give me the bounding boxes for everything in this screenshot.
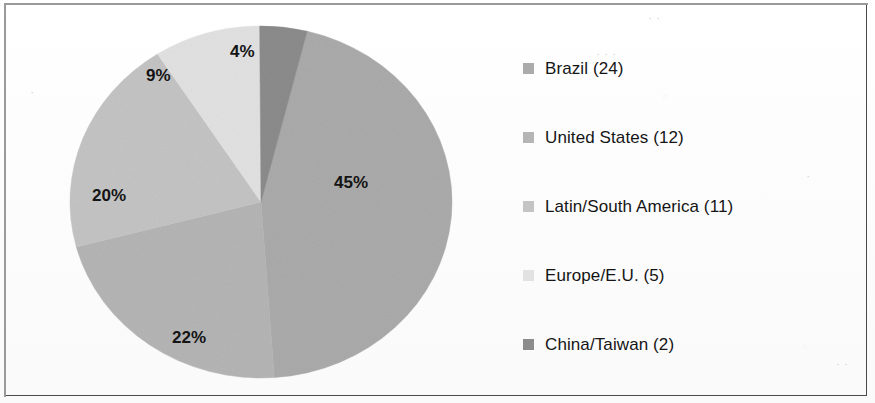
legend-item-china-taiwan[interactable]: China/Taiwan (2) [523, 310, 853, 379]
legend-item-brazil[interactable]: Brazil (24) [523, 34, 853, 103]
pie-slices [70, 26, 452, 378]
legend-item-united-states[interactable]: United States (12) [523, 103, 853, 172]
legend-swatch-icon [523, 132, 534, 143]
legend-label: Latin/South America (11) [545, 197, 733, 217]
legend-swatch-icon [523, 270, 534, 281]
legend-label: Brazil (24) [545, 59, 624, 79]
legend-swatch-icon [523, 63, 534, 74]
pie-chart: 45% 22% 20% 9% 4% [62, 18, 462, 388]
slice-percent-label-china-taiwan: 4% [230, 42, 255, 62]
slice-percent-label-europe: 9% [146, 66, 171, 86]
slice-percent-label-brazil: 45% [334, 173, 368, 193]
legend-label: United States (12) [545, 128, 684, 148]
slice-percent-label-united-states: 22% [172, 328, 206, 348]
legend-label: China/Taiwan (2) [545, 335, 674, 355]
chart-legend: Brazil (24) United States (12) Latin/Sou… [523, 34, 853, 379]
legend-item-latin-south-america[interactable]: Latin/South America (11) [523, 172, 853, 241]
legend-swatch-icon [523, 201, 534, 212]
legend-label: Europe/E.U. (5) [545, 266, 665, 286]
slice-percent-label-latin-america: 20% [92, 186, 126, 206]
figure-page: · · · · · · · · · 45% 22% 20% 9% [0, 0, 875, 403]
legend-swatch-icon [523, 339, 534, 350]
legend-item-europe-eu[interactable]: Europe/E.U. (5) [523, 241, 853, 310]
